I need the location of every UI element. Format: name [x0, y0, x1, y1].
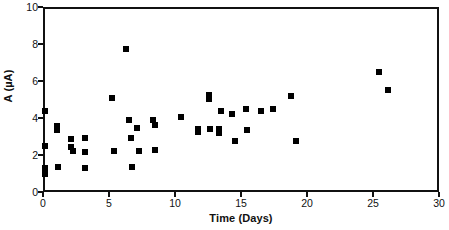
data-point: [70, 148, 76, 154]
data-point: [42, 108, 48, 114]
data-point: [218, 108, 224, 114]
x-tick-label: 5: [89, 197, 129, 210]
x-tick-label: 25: [353, 197, 393, 210]
data-point: [128, 135, 134, 141]
x-tick-mark: [42, 192, 44, 197]
data-point: [195, 129, 201, 135]
x-tick-mark: [306, 192, 308, 197]
plot-area: [43, 7, 439, 192]
data-point: [111, 148, 117, 154]
data-point: [288, 93, 294, 99]
data-point: [232, 138, 238, 144]
data-point: [270, 106, 276, 112]
data-point: [129, 164, 135, 170]
data-point: [134, 125, 140, 131]
y-tick-label: 10: [0, 2, 38, 13]
data-point: [152, 147, 158, 153]
data-point: [68, 136, 74, 142]
data-point: [258, 108, 264, 114]
data-point: [207, 126, 213, 132]
x-axis-title: Time (Days): [43, 212, 439, 224]
data-point: [82, 149, 88, 155]
data-point: [42, 171, 48, 177]
x-tick-mark: [438, 192, 440, 197]
x-tick-mark: [240, 192, 242, 197]
data-points-layer: [45, 9, 437, 190]
y-tick-label: 0: [0, 187, 38, 198]
data-point: [126, 117, 132, 123]
data-point: [54, 127, 60, 133]
data-point: [82, 135, 88, 141]
x-tick-mark: [372, 192, 374, 197]
data-point: [206, 96, 212, 102]
y-tick-label: 2: [0, 150, 38, 161]
data-point: [152, 122, 158, 128]
data-point: [244, 127, 250, 133]
data-point: [136, 148, 142, 154]
data-point: [243, 106, 249, 112]
data-point: [293, 138, 299, 144]
data-point: [123, 46, 129, 52]
data-point: [82, 165, 88, 171]
data-point: [178, 114, 184, 120]
x-tick-label: 20: [287, 197, 327, 210]
data-point: [42, 143, 48, 149]
x-tick-label: 10: [155, 197, 195, 210]
x-tick-label: 30: [419, 197, 449, 210]
data-point: [216, 130, 222, 136]
scatter-chart-figure: 0246810051015202530 Time (Days) A (µA): [0, 0, 449, 230]
x-tick-mark: [108, 192, 110, 197]
x-tick-label: 15: [221, 197, 261, 210]
data-point: [109, 95, 115, 101]
x-tick-label: 0: [23, 197, 63, 210]
data-point: [229, 111, 235, 117]
y-axis-title: A (µA): [2, 46, 14, 126]
data-point: [55, 164, 61, 170]
x-tick-mark: [174, 192, 176, 197]
data-point: [376, 69, 382, 75]
data-point: [385, 87, 391, 93]
